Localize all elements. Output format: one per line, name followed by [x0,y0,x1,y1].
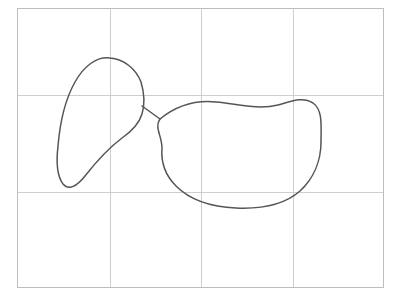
figure-root: Hand-drawn closed curves over faint grid… [0,0,394,295]
line-drawing-canvas [0,0,394,295]
canvas-background [0,0,394,295]
